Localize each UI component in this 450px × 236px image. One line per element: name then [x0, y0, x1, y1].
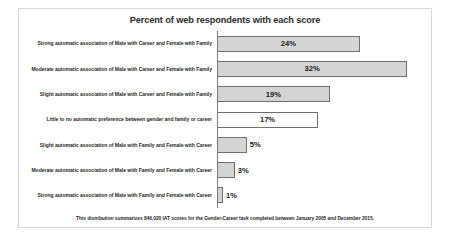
category-label: Moderate automatic association of Male w…	[19, 167, 217, 174]
bar-value-label: 3%	[238, 166, 249, 175]
bar[interactable]	[217, 137, 247, 153]
chart-title: Percent of web respondents with each sco…	[19, 15, 431, 25]
category-label: Slight automatic association of Male wit…	[19, 91, 217, 98]
bar-value-label: 1%	[226, 191, 237, 200]
bar-zone: 17%	[217, 107, 433, 132]
bar-value-label: 24%	[281, 39, 296, 48]
bar-value-label: 19%	[266, 90, 281, 99]
chart-footnote: This distribution summarizes 846,020 IAT…	[19, 216, 431, 221]
bar-row: Strong automatic association of Male wit…	[19, 31, 433, 56]
category-axis-line	[217, 31, 218, 208]
bar-zone: 32%	[217, 56, 433, 81]
chart-frame: Percent of web respondents with each sco…	[18, 8, 432, 228]
bar-zone: 19%	[217, 82, 433, 107]
category-label: Little to no automatic preference betwee…	[19, 116, 217, 123]
bar[interactable]: 24%	[217, 36, 360, 52]
bar-value-label: 32%	[304, 64, 319, 73]
bar-zone: 24%	[217, 31, 433, 56]
bar[interactable]: 17%	[217, 112, 318, 128]
bar[interactable]	[217, 162, 235, 178]
bar-row: Little to no automatic preference betwee…	[19, 107, 433, 132]
category-label: Moderate automatic association of Male w…	[19, 66, 217, 73]
bar-row: Moderate automatic association of Male w…	[19, 157, 433, 182]
bar[interactable]: 19%	[217, 86, 330, 102]
bar-zone: 5%	[217, 132, 433, 157]
category-label: Strong automatic association of Male wit…	[19, 40, 217, 47]
bar-row: Slight automatic association of Male wit…	[19, 132, 433, 157]
plot-area: Strong automatic association of Male wit…	[19, 31, 433, 208]
bar-zone: 1%	[217, 183, 433, 208]
bar-row: Slight automatic association of Male wit…	[19, 82, 433, 107]
bar-row: Moderate automatic association of Male w…	[19, 56, 433, 81]
category-label: Slight automatic association of Male wit…	[19, 142, 217, 149]
bar-value-label: 5%	[250, 140, 261, 149]
bar-row: Strong automatic association of Male wit…	[19, 183, 433, 208]
bar-zone: 3%	[217, 157, 433, 182]
bar[interactable]: 32%	[217, 61, 407, 77]
bar-value-label: 17%	[260, 115, 275, 124]
category-label: Strong automatic association of Male wit…	[19, 192, 217, 199]
